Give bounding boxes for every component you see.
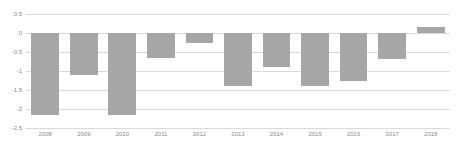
gridline-neg2_5 xyxy=(26,128,450,129)
x-axis-tick-label: 2015 xyxy=(308,131,321,137)
bar xyxy=(224,33,252,86)
y-axis-tick-label: -2 xyxy=(17,106,22,112)
bar-slot xyxy=(26,14,65,128)
x-axis-tick-label: 2016 xyxy=(347,131,360,137)
bar xyxy=(378,33,406,59)
bar-slot xyxy=(142,14,181,128)
bar-slot xyxy=(257,14,296,128)
x-axis-tick-label: 2017 xyxy=(385,131,398,137)
bar-slot xyxy=(65,14,104,128)
x-axis-tick-label: 2011 xyxy=(154,131,167,137)
x-axis-tick-label: 2008 xyxy=(39,131,52,137)
x-axis-tick-label: 2013 xyxy=(231,131,244,137)
bar xyxy=(301,33,329,86)
bar-slot xyxy=(219,14,258,128)
x-axis-tick-label: 2012 xyxy=(193,131,206,137)
x-axis-tick-labels: 2008200920102011201220132014201520162017… xyxy=(26,131,450,145)
bar-slot xyxy=(296,14,335,128)
y-axis-tick-label: -1 xyxy=(17,68,22,74)
y-axis-tick-label: -0.5 xyxy=(12,49,22,55)
x-axis-tick-label: 2014 xyxy=(270,131,283,137)
bar-slot xyxy=(373,14,412,128)
bars xyxy=(26,14,450,128)
bar xyxy=(147,33,175,58)
y-axis-tick-label: -2.5 xyxy=(12,125,22,131)
bar-slot xyxy=(334,14,373,128)
bar xyxy=(31,33,59,115)
bar-chart: 0.50-0.5-1-1.5-2-2.5 2008200920102011201… xyxy=(0,0,457,152)
bar-slot xyxy=(103,14,142,128)
bar xyxy=(340,33,368,81)
bar-slot xyxy=(411,14,450,128)
y-axis-tick-label: 0 xyxy=(19,30,22,36)
bar xyxy=(186,33,214,43)
bar-slot xyxy=(180,14,219,128)
bar xyxy=(417,27,445,33)
plot-area: 0.50-0.5-1-1.5-2-2.5 xyxy=(26,14,450,128)
x-axis-tick-label: 2009 xyxy=(77,131,90,137)
bar xyxy=(263,33,291,67)
y-axis-tick-label: -1.5 xyxy=(12,87,22,93)
bar xyxy=(70,33,98,75)
x-axis-tick-label: 2010 xyxy=(116,131,129,137)
y-axis-tick-label: 0.5 xyxy=(14,11,22,17)
x-axis-tick-label: 2018 xyxy=(424,131,437,137)
bar xyxy=(108,33,136,115)
